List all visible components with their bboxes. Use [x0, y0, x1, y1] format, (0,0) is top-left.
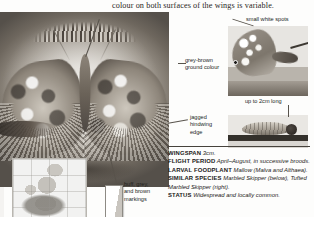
caterpillar-head — [286, 124, 297, 135]
fact-panel-divider — [168, 146, 310, 147]
fact-label: STATUS — [168, 192, 192, 198]
marker-dot-ground-colour — [233, 60, 238, 65]
callout-buff-grey-brown-markings: buff, grey, and brown markings — [124, 181, 150, 203]
leader-line-jagged-edge — [168, 119, 188, 123]
fact-row: WINGSPAN 3cm. — [168, 149, 310, 157]
fact-label: FLIGHT PERIOD — [168, 158, 215, 164]
right-wing-jagged-edge — [83, 103, 169, 161]
page-bottom-margin — [0, 217, 314, 233]
caterpillar-photo — [228, 115, 308, 148]
field-guide-page: colour on both surfaces of the wings is … — [0, 0, 314, 233]
upper-wing-fringe — [27, 16, 142, 42]
fact-value: Widespread and locally common. — [192, 192, 280, 198]
callout-jagged-hindwing-edge: jagged hindwing edge — [190, 114, 212, 136]
map-grid — [13, 159, 86, 225]
fact-value: Mallow (Malva and Althaea). — [232, 167, 308, 173]
callout-grey-brown-ground-colour: grey-brown ground colour — [185, 57, 219, 72]
twig — [0, 121, 58, 137]
underside-wing — [229, 27, 279, 79]
fact-row: LARVAL FOODPLANT Mallow (Malva and Altha… — [168, 166, 310, 174]
species-fact-panel: WINGSPAN 3cm.FLIGHT PERIOD April–August,… — [168, 146, 310, 216]
fact-row: SIMILAR SPECIES Marbled Skipper (below),… — [168, 174, 310, 191]
caterpillar-body — [242, 122, 290, 135]
fact-list: WINGSPAN 3cm.FLIGHT PERIOD April–August,… — [168, 146, 310, 199]
fact-label: WINGSPAN — [168, 150, 201, 156]
callout-up-to-2cm-long: up to 2cm long — [245, 98, 282, 105]
perch-surface — [228, 81, 308, 96]
intro-text: colour on both surfaces of the wings is … — [112, 1, 312, 10]
callout-small-white-spots: small white spots — [246, 16, 289, 23]
fact-label: LARVAL FOODPLANT — [168, 167, 232, 173]
fact-row: FLIGHT PERIOD April–August, in successiv… — [168, 157, 310, 165]
distribution-map-inset — [12, 158, 87, 226]
underside-antenna — [290, 41, 308, 49]
fact-value: April–August, in successive broods. — [215, 158, 309, 164]
caterpillar-branch — [228, 135, 308, 140]
fact-value: 3cm. — [201, 150, 215, 156]
leader-line-2cm — [288, 105, 289, 117]
underside-view-photo — [228, 26, 308, 96]
fact-row: STATUS Widespread and locally common. — [168, 191, 310, 199]
fact-label: SIMILAR SPECIES — [168, 175, 222, 181]
